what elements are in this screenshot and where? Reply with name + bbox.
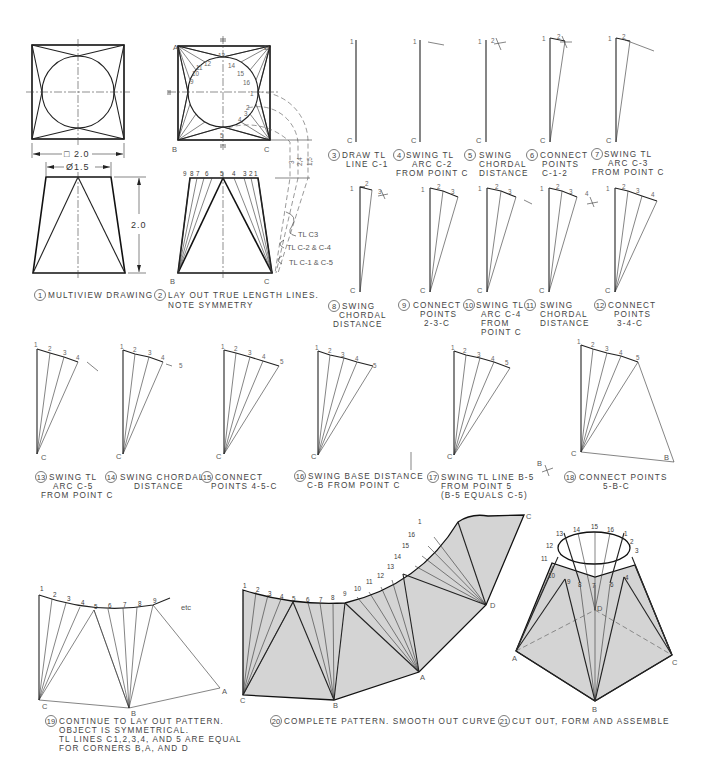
svg-text:2: 2 — [463, 347, 467, 354]
svg-text:SWING TL: SWING TL — [604, 150, 652, 159]
svg-text:C: C — [540, 136, 546, 145]
svg-text:C-B FROM POINT C: C-B FROM POINT C — [307, 481, 400, 490]
svg-text:B: B — [537, 459, 542, 468]
svg-text:C: C — [539, 286, 545, 295]
svg-text:COMPLETE PATTERN. SMOOTH OUT C: COMPLETE PATTERN. SMOOTH OUT CURVE — [284, 717, 496, 726]
svg-text:2: 2 — [53, 591, 57, 598]
caption-step-10: 10 SWING TLARC C-4FROMPOINT C — [464, 300, 525, 338]
caption-step-4: 4 SWING TLARC C-2FROM POINT C — [394, 150, 469, 179]
svg-text:C: C — [526, 512, 532, 521]
svg-text:C: C — [264, 145, 270, 154]
svg-text:12: 12 — [204, 60, 212, 67]
svg-text:3: 3 — [332, 151, 336, 160]
caption-step-8: 8 SWINGCHORDALDISTANCE — [329, 301, 387, 330]
svg-text:8: 8 — [332, 302, 336, 311]
step-1-multiview-drawing: □ 2.0 Ø1.5 2.0 — [26, 39, 147, 280]
svg-text:10: 10 — [465, 301, 473, 310]
svg-text:3: 3 — [248, 349, 252, 356]
svg-text:7: 7 — [196, 170, 200, 177]
svg-text:3: 3 — [451, 188, 455, 195]
svg-text:21: 21 — [500, 717, 508, 726]
svg-text:18: 18 — [566, 473, 574, 482]
svg-text:DRAW TL: DRAW TL — [342, 151, 386, 160]
caption-step-19: 19 CONTINUE TO LAY OUT PATTERN.OBJECT IS… — [46, 716, 242, 754]
svg-text:C: C — [350, 286, 356, 295]
svg-text:FROM POINT C: FROM POINT C — [41, 491, 114, 500]
svg-text:3: 3 — [63, 349, 67, 356]
svg-text:C: C — [216, 452, 222, 461]
svg-text:10: 10 — [548, 572, 556, 579]
svg-text:4: 4 — [355, 355, 359, 362]
caption-step-13: 13 SWING TLARC C-5FROM POINT C — [36, 472, 114, 501]
svg-text:1: 1 — [577, 338, 581, 345]
caption-step-12: 12 CONNECTPOINTS3-4-C — [595, 300, 657, 329]
svg-text:3: 3 — [268, 590, 272, 597]
step-19-continue-pattern: 123456789 etc C B A — [39, 585, 227, 718]
svg-text:1: 1 — [478, 38, 482, 45]
step-20-complete-pattern: 123456789 101112131415161 C D A B C — [240, 512, 532, 710]
transition-piece-development-diagram: □ 2.0 Ø1.5 2.0 — [0, 0, 704, 765]
svg-text:1: 1 — [608, 35, 612, 42]
svg-text:SWING TL: SWING TL — [406, 151, 454, 160]
caption-step-6: 6 CONNECTPOINTSC-1-2 — [527, 150, 589, 179]
svg-text:4: 4 — [76, 354, 80, 361]
svg-text:2: 2 — [591, 341, 595, 348]
svg-text:11: 11 — [541, 555, 548, 562]
svg-text:16: 16 — [296, 472, 304, 481]
svg-text:13: 13 — [387, 563, 395, 570]
svg-text:3: 3 — [148, 349, 152, 356]
svg-text:D: D — [597, 604, 603, 613]
svg-text:B: B — [333, 701, 338, 710]
step-2-true-length-layout: A D B C 9101112 13141516 12345 3 2,4 1,5… — [168, 36, 333, 286]
svg-text:FROM: FROM — [481, 319, 510, 328]
svg-text:B: B — [172, 145, 177, 154]
svg-text:POINTS: POINTS — [614, 310, 651, 319]
svg-text:5: 5 — [280, 358, 284, 365]
svg-text:1: 1 — [243, 582, 247, 589]
svg-text:SWING TL: SWING TL — [476, 301, 524, 310]
svg-text:3: 3 — [508, 188, 512, 195]
svg-text:4: 4 — [161, 354, 165, 361]
svg-text:B: B — [664, 453, 669, 462]
svg-text:C: C — [672, 658, 678, 667]
caption-step-3: 3 DRAW TLLINE C-1 — [329, 150, 389, 170]
svg-text:15: 15 — [237, 70, 245, 77]
svg-text:19: 19 — [47, 717, 55, 726]
svg-text:12: 12 — [377, 572, 385, 579]
caption-step-16: 16 SWING BASE DISTANCEC-B FROM POINT C — [295, 471, 424, 491]
svg-text:4: 4 — [81, 599, 85, 606]
svg-text:CUT OUT, FORM AND ASSEMBLE: CUT OUT, FORM AND ASSEMBLE — [512, 717, 670, 726]
svg-text:C: C — [605, 286, 611, 295]
svg-text:1: 1 — [350, 185, 354, 192]
tl-c3-label: TL C3 — [298, 230, 318, 239]
svg-text:A: A — [173, 43, 178, 52]
svg-text:16: 16 — [408, 531, 416, 538]
svg-text:SWING TL LINE B-5: SWING TL LINE B-5 — [441, 473, 534, 482]
svg-text:C: C — [571, 449, 577, 458]
svg-text:7: 7 — [123, 601, 127, 608]
svg-text:C: C — [447, 452, 453, 461]
svg-text:8: 8 — [190, 170, 194, 177]
svg-text:6: 6 — [108, 602, 112, 609]
svg-text:9: 9 — [183, 170, 187, 177]
svg-text:C: C — [116, 452, 122, 461]
svg-text:4: 4 — [625, 574, 629, 581]
svg-text:4: 4 — [232, 170, 236, 177]
svg-text:3: 3 — [67, 595, 71, 602]
svg-text:CONNECT: CONNECT — [608, 301, 656, 310]
svg-text:1: 1 — [221, 343, 225, 350]
svg-text:8: 8 — [331, 594, 335, 601]
svg-text:3: 3 — [244, 110, 248, 117]
svg-text:5: 5 — [373, 362, 377, 369]
svg-text:C: C — [411, 136, 417, 145]
svg-text:10: 10 — [192, 70, 200, 77]
svg-text:3: 3 — [341, 351, 345, 358]
square-dimension: □ 2.0 — [64, 149, 89, 159]
steps-3-to-7: 1C 1C 1C 2 1C2 1C2 — [347, 33, 654, 145]
svg-text:D: D — [490, 601, 496, 610]
svg-text:14: 14 — [394, 553, 402, 560]
svg-text:1: 1 — [40, 585, 44, 592]
svg-text:6: 6 — [530, 151, 534, 160]
svg-text:1,5: 1,5 — [306, 157, 313, 166]
svg-text:ARC C-4: ARC C-4 — [481, 310, 521, 319]
